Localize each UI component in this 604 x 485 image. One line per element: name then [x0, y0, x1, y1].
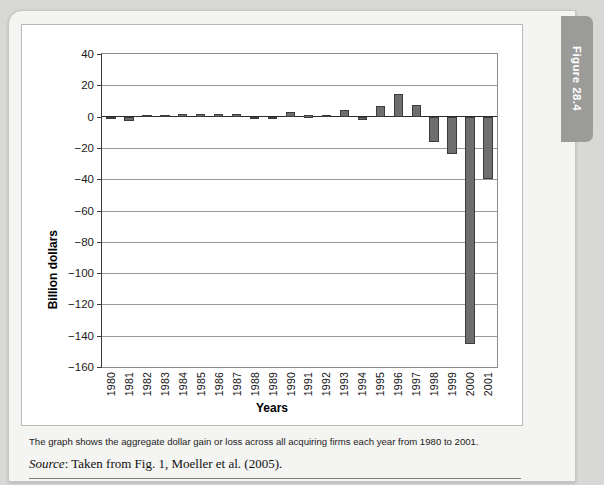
y-axis-tick	[97, 85, 102, 86]
x-axis-tick-label: 2000	[464, 372, 476, 396]
gridline	[102, 179, 497, 180]
source-label: Source	[29, 456, 65, 471]
bar	[106, 117, 115, 119]
gridline	[102, 242, 497, 243]
chart-container: Billion dollars 40200−20−40−60−80−100−12…	[21, 24, 523, 426]
x-axis-title: Years	[22, 401, 522, 415]
bar	[268, 117, 277, 119]
gridline	[102, 148, 497, 149]
y-axis-tick-label: −160	[68, 361, 94, 373]
y-axis-tick-label: −100	[68, 267, 94, 279]
figure-number-tab: Figure 28.4	[561, 16, 593, 142]
y-axis-tick	[97, 367, 102, 368]
y-axis-tick	[97, 179, 102, 180]
bar	[160, 115, 169, 117]
bar	[250, 117, 259, 119]
y-axis-tick-label: −120	[68, 298, 94, 310]
x-axis-tick-label: 1992	[320, 372, 332, 396]
bar	[483, 117, 492, 180]
x-axis-tick-label: 1997	[410, 372, 422, 396]
x-axis-tick-label: 2001	[482, 372, 494, 396]
y-axis-tick	[97, 336, 102, 337]
gridline	[102, 85, 497, 86]
x-axis-tick-label: 1983	[159, 372, 171, 396]
bar	[304, 115, 313, 117]
y-axis-tick-label: −80	[74, 236, 94, 248]
y-axis-tick-label: −40	[74, 173, 94, 185]
figure-number-label: Figure 28.4	[571, 46, 583, 111]
x-axis-tick-label: 1993	[338, 372, 350, 396]
plot-area: 40200−20−40−60−80−100−120−140−1601980198…	[101, 53, 498, 368]
x-axis-tick-label: 1980	[105, 372, 117, 396]
gridline	[102, 304, 497, 305]
bar	[412, 105, 421, 117]
bar	[142, 115, 151, 117]
x-axis-tick-label: 1984	[177, 372, 189, 396]
x-axis-tick-label: 1996	[392, 372, 404, 396]
y-axis-tick-label: −20	[74, 142, 94, 154]
y-axis-title: Billion dollars	[46, 230, 60, 309]
x-axis-tick-label: 1999	[446, 372, 458, 396]
y-axis-tick	[97, 273, 102, 274]
x-axis-tick-label: 1982	[141, 372, 153, 396]
x-axis-tick-label: 1998	[428, 372, 440, 396]
figure-source: Source: Taken from Fig. 1, Moeller et al…	[29, 456, 499, 472]
y-axis-tick	[97, 54, 102, 55]
bar	[394, 94, 403, 117]
y-axis-tick	[97, 211, 102, 212]
bar	[286, 112, 295, 116]
bar	[340, 110, 349, 116]
x-axis-tick-label: 1989	[267, 372, 279, 396]
y-axis-tick-label: 40	[81, 48, 94, 60]
y-axis-tick	[97, 304, 102, 305]
x-axis-tick-label: 1981	[123, 372, 135, 396]
y-axis-tick	[97, 148, 102, 149]
bar	[447, 117, 456, 155]
bar	[322, 115, 331, 117]
x-axis-tick-label: 1991	[302, 372, 314, 396]
y-axis-tick-label: 0	[88, 111, 94, 123]
x-axis-tick-label: 1995	[374, 372, 386, 396]
x-axis-tick-label: 1985	[195, 372, 207, 396]
bar	[429, 117, 438, 143]
source-text: : Taken from Fig. 1, Moeller et al. (200…	[65, 456, 283, 471]
bar	[465, 117, 474, 344]
bar	[214, 114, 223, 117]
bar	[196, 114, 205, 116]
bar	[232, 114, 241, 117]
bar	[124, 117, 133, 122]
y-axis-tick-label: 20	[81, 79, 94, 91]
gridline	[102, 336, 497, 337]
x-axis-tick-label: 1994	[356, 372, 368, 396]
x-axis-tick-label: 1990	[285, 372, 297, 396]
gridline	[102, 273, 497, 274]
horizontal-divider	[29, 478, 521, 479]
x-axis-tick-label: 1988	[249, 372, 261, 396]
gridline	[102, 211, 497, 212]
bar	[178, 114, 187, 116]
y-axis-tick	[97, 242, 102, 243]
x-axis-tick-label: 1986	[213, 372, 225, 396]
y-axis-tick	[97, 117, 102, 118]
y-axis-tick-label: −60	[74, 205, 94, 217]
bar	[358, 117, 367, 120]
bar	[376, 106, 385, 116]
y-axis-tick-label: −140	[68, 330, 94, 342]
x-axis-tick-label: 1987	[231, 372, 243, 396]
figure-note: The graph shows the aggregate dollar gai…	[29, 436, 499, 448]
